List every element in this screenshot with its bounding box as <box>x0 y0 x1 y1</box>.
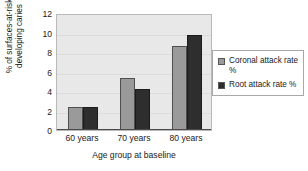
bar-60-years-coronal <box>68 107 83 130</box>
legend-swatch-icon <box>218 58 225 65</box>
x-tick-label: 60 years <box>56 133 108 144</box>
x-axis-baseline <box>57 129 211 130</box>
legend-swatch-icon <box>218 82 225 89</box>
x-axis-title: Age group at baseline <box>46 150 222 160</box>
y-axis-tick-labels: 024681012 <box>30 14 52 131</box>
legend-item: Coronal attack rate % <box>218 56 299 76</box>
y-tick-label: 6 <box>30 68 52 77</box>
bar-70-years-coronal <box>120 78 135 130</box>
bar-group-container <box>57 15 211 130</box>
y-tick-label: 4 <box>30 88 52 97</box>
bar-chart-figure: % of surfaces-at-risk developing caries … <box>0 0 308 171</box>
legend-label: Root attack rate % <box>229 80 296 90</box>
bar-70-years-root <box>135 89 150 130</box>
chart-legend: Coronal attack rate %Root attack rate % <box>212 50 304 96</box>
x-tick-label: 80 years <box>160 133 212 144</box>
y-tick-label: 12 <box>30 10 52 19</box>
y-axis-title: % of surfaces-at-risk developing caries <box>5 0 25 98</box>
legend-item: Root attack rate % <box>218 80 299 90</box>
bar-60-years-root <box>83 107 98 130</box>
plot-area <box>56 14 212 131</box>
x-axis-tick-labels: 60 years70 years80 years <box>56 133 212 145</box>
legend-label: Coronal attack rate % <box>229 56 299 76</box>
y-tick-label: 8 <box>30 49 52 58</box>
y-tick-label: 2 <box>30 107 52 116</box>
bar-80-years-coronal <box>172 46 187 130</box>
y-tick-label: 0 <box>30 127 52 136</box>
y-tick-label: 10 <box>30 29 52 38</box>
bar-80-years-root <box>187 35 202 130</box>
x-tick-label: 70 years <box>108 133 160 144</box>
